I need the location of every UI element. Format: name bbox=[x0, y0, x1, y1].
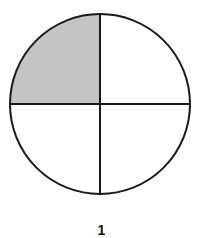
fraction-circle-diagram bbox=[0, 0, 203, 238]
figure-label: 1 bbox=[0, 222, 203, 238]
shaded-quadrant bbox=[10, 14, 100, 104]
